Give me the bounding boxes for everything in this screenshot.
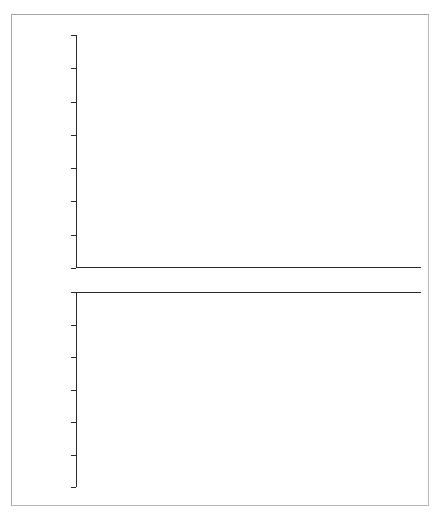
bottom-chart-zero-line xyxy=(76,292,421,293)
top-chart-plot-area xyxy=(76,35,421,268)
bottom-chart-y-axis xyxy=(76,292,77,487)
chart-figure xyxy=(0,0,444,517)
top-chart-y-axis xyxy=(76,35,77,268)
top-chart-x-axis xyxy=(76,267,421,268)
bottom-chart-plot-area xyxy=(76,292,421,487)
